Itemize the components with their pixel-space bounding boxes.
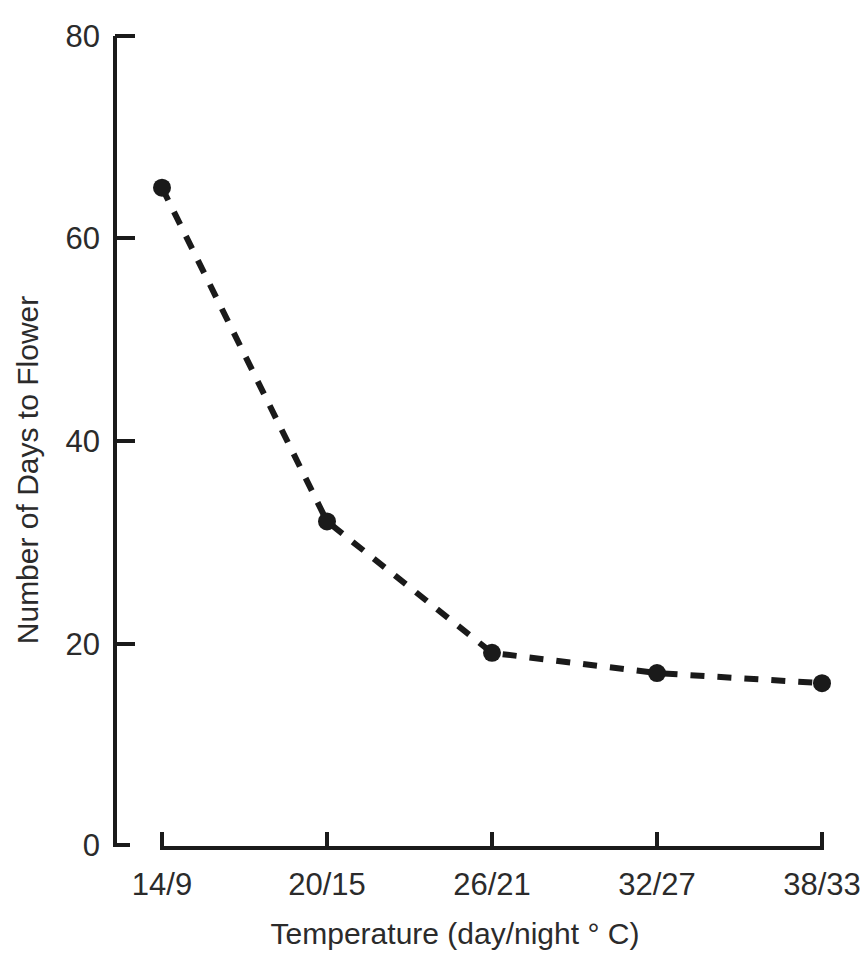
series-markers: 14/9: 6520/15: 3226/21: 1932/27: 1738/33…	[153, 179, 831, 693]
y-tick-label-80: 80	[66, 19, 100, 54]
data-point-20/15: 20/15: 32	[318, 512, 336, 530]
data-point-14/9: 14/9: 65	[153, 179, 171, 197]
data-point-38/33: 38/33: 16	[813, 674, 831, 692]
series-line-days-to-flower	[162, 188, 822, 684]
y-tick-label-20: 20	[66, 627, 100, 662]
y-tick-label-60: 60	[66, 221, 100, 256]
line-chart-canvas: 80 60 40 20 0 Number of Days to Flower 1…	[0, 0, 864, 966]
y-tick-label-40: 40	[66, 424, 100, 459]
x-axis: 14/9 20/15 26/21 32/27 38/33	[132, 832, 861, 902]
y-axis: 80 60 40 20 0	[66, 19, 135, 863]
data-series-group: 14/9: 6520/15: 3226/21: 1932/27: 1738/33…	[153, 179, 831, 693]
x-axis-title: Temperature (day/night ° C)	[271, 917, 640, 950]
x-tick-label-26-21: 26/21	[453, 867, 531, 902]
y-axis-title: Number of Days to Flower	[11, 296, 44, 644]
x-tick-label-32-27: 32/27	[618, 867, 696, 902]
x-tick-label-14-9: 14/9	[132, 867, 192, 902]
x-tick-label-38-33: 38/33	[783, 867, 861, 902]
x-tick-label-20-15: 20/15	[288, 867, 366, 902]
data-point-32/27: 32/27: 17	[648, 664, 666, 682]
y-tick-label-0: 0	[83, 828, 100, 863]
data-point-26/21: 26/21: 19	[483, 644, 501, 662]
chart-figure: 80 60 40 20 0 Number of Days to Flower 1…	[0, 0, 864, 966]
